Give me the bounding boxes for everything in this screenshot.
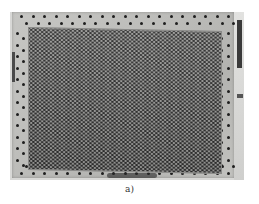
bolt-hole	[22, 129, 25, 132]
bolt-hole	[175, 22, 178, 25]
bolt-hole	[158, 15, 161, 18]
bolt-hole	[20, 15, 23, 18]
bolt-hole	[193, 15, 196, 18]
bolt-hole	[78, 172, 81, 175]
bolt-hole	[16, 101, 19, 104]
bolt-hole	[135, 15, 138, 18]
bolt-hole	[94, 22, 97, 25]
bolt-hole	[22, 106, 25, 109]
bolt-hole	[181, 15, 184, 18]
bolt-hole	[22, 141, 25, 144]
bolt-hole	[140, 22, 143, 25]
bolt-hole	[112, 15, 115, 18]
bolt-hole	[152, 22, 155, 25]
bolt-hole	[163, 22, 166, 25]
bolt-hole	[60, 22, 63, 25]
bolt-hole	[43, 172, 46, 175]
bolt-hole	[83, 22, 86, 25]
bolt-hole	[129, 22, 132, 25]
bolt-hole	[25, 22, 28, 25]
bolt-hole	[16, 44, 19, 47]
bolt-hole	[227, 78, 230, 81]
bolt-hole	[32, 172, 35, 175]
bolt-hole	[22, 72, 25, 75]
bolt-hole	[227, 101, 230, 104]
bolt-hole	[101, 15, 104, 18]
bolt-hole	[16, 136, 19, 139]
bolt-hole	[16, 55, 19, 58]
bolt-hole	[66, 172, 69, 175]
bolt-hole	[43, 15, 46, 18]
bolt-hole	[227, 15, 230, 18]
bolt-hole	[16, 147, 19, 150]
bolt-hole	[232, 165, 235, 168]
support-stand	[237, 20, 242, 68]
frame-edge-shadow	[12, 52, 15, 82]
bolt-hole	[20, 172, 23, 175]
plate-frame	[12, 12, 234, 178]
bolt-hole	[227, 159, 230, 162]
bolt-hole	[227, 44, 230, 47]
bolt-hole	[89, 172, 92, 175]
bolt-hole	[198, 22, 201, 25]
bolt-hole	[22, 95, 25, 98]
bolt-hole	[89, 15, 92, 18]
bolt-hole	[22, 60, 25, 63]
bolt-hole	[227, 67, 230, 70]
bolt-hole	[124, 15, 127, 18]
bolt-hole	[22, 118, 25, 121]
bolt-hole	[48, 22, 51, 25]
bolt-hole	[22, 164, 25, 167]
bolt-hole	[216, 15, 219, 18]
bolt-hole	[22, 49, 25, 52]
perforated-area	[28, 27, 222, 174]
bolt-hole	[227, 172, 230, 175]
bolt-hole	[209, 22, 212, 25]
perforated-area-shading	[29, 28, 221, 173]
bolt-hole	[227, 124, 230, 127]
bolt-hole	[16, 90, 19, 93]
bolt-hole	[227, 136, 230, 139]
bolt-hole	[16, 78, 19, 81]
bolt-hole	[106, 22, 109, 25]
bolt-hole	[16, 159, 19, 162]
bolt-hole	[55, 15, 58, 18]
bolt-hole	[22, 37, 25, 40]
bolt-hole	[117, 22, 120, 25]
bolt-hole	[227, 55, 230, 58]
bolt-hole	[221, 22, 224, 25]
bolt-hole	[227, 90, 230, 93]
bolt-hole	[147, 15, 150, 18]
bolt-hole	[101, 172, 104, 175]
bolt-hole	[71, 22, 74, 25]
bolt-hole	[232, 22, 235, 25]
bolt-hole	[16, 124, 19, 127]
bolt-hole	[204, 15, 207, 18]
bolt-hole	[170, 15, 173, 18]
perforated-plate-photo	[10, 12, 244, 180]
bolt-hole	[16, 113, 19, 116]
bolt-hole	[16, 32, 19, 35]
bolt-hole	[37, 22, 40, 25]
bolt-hole	[22, 152, 25, 155]
bolt-hole	[78, 15, 81, 18]
bolt-hole	[66, 15, 69, 18]
bolt-hole	[22, 83, 25, 86]
bolt-hole	[227, 147, 230, 150]
bolt-hole	[227, 32, 230, 35]
bolt-hole	[16, 67, 19, 70]
bolt-hole	[227, 113, 230, 116]
bolt-hole	[186, 22, 189, 25]
bolt-hole	[32, 15, 35, 18]
support-clamp	[237, 94, 243, 98]
bolt-hole	[55, 172, 58, 175]
figure-caption: a)	[0, 184, 259, 194]
bottom-clamp-shadow	[107, 173, 157, 178]
